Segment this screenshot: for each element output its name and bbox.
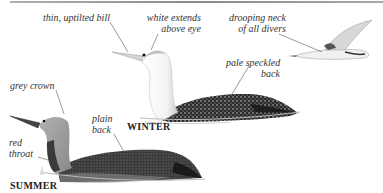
bird-identification-figure: thin, uptilted bill white extends above … [0, 0, 383, 193]
label-line: red [9, 137, 33, 148]
label-line: pale speckled [226, 57, 280, 68]
label-red-throat: red throat [9, 137, 33, 159]
label-line: white extends [145, 12, 201, 23]
season-label-winter: WINTER [127, 121, 170, 132]
label-line: drooping neck [226, 12, 286, 23]
label-line: back [92, 124, 113, 135]
season-label-summer: SUMMER [10, 180, 57, 191]
label-line: plain [92, 113, 113, 124]
label-line: of all divers [226, 23, 286, 34]
label-plain-back: plain back [92, 113, 113, 135]
leader-lines [38, 22, 322, 160]
label-line: above eye [145, 23, 201, 34]
label-line: back [226, 68, 280, 79]
label-grey-crown: grey crown [10, 80, 55, 91]
label-line: throat [9, 148, 33, 159]
flying-bird [288, 20, 372, 59]
label-white-above-eye: white extends above eye [145, 12, 201, 34]
label-thin-uptilted-bill: thin, uptilted bill [43, 12, 110, 23]
label-drooping-neck: drooping neck of all divers [226, 12, 286, 34]
label-pale-speckled-back: pale speckled back [226, 57, 280, 79]
